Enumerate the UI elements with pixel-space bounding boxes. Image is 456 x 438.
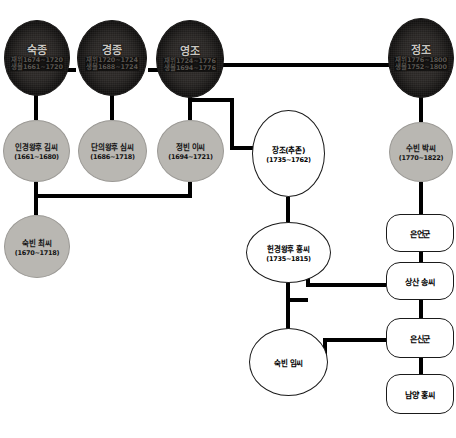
genealogy-chart: 숙종 재위1674~1720 생몰1661~1720 경종 재위1720~172… bbox=[0, 0, 456, 438]
node-jangjo[interactable]: 장조(추존) (1735~1762) bbox=[252, 110, 325, 197]
node-subin-park-dates: (1770~1822) bbox=[399, 154, 443, 162]
node-hyegyeong-queen-dates: (1735~1815) bbox=[266, 255, 310, 263]
node-sangsan-song[interactable]: 상산 송씨 bbox=[386, 262, 454, 300]
node-hyegyeong-queen-name: 헌경왕후 홍씨 bbox=[267, 243, 310, 254]
node-sukbin-lim-name: 숙빈 임씨 bbox=[274, 357, 303, 368]
node-jeongbin-lee-dates: (1694~1721) bbox=[168, 153, 212, 161]
node-jeongjo-reign: 생몰1752~1800 bbox=[394, 64, 447, 71]
node-yeongjo[interactable]: 영조 재위1724~1776 생몰1694~1776 bbox=[156, 20, 224, 98]
node-subin-park-name: 수빈 박씨 bbox=[406, 142, 435, 153]
node-namyang-hong[interactable]: 남양 홍씨 bbox=[386, 374, 454, 414]
node-jeongbin-lee-name: 정빈 이씨 bbox=[176, 141, 205, 152]
node-jeongbin-lee[interactable]: 정빈 이씨 (1694~1721) bbox=[157, 120, 224, 182]
node-jangjo-dates: (1735~1762) bbox=[266, 156, 310, 164]
node-danui-queen-name: 단의왕후 심씨 bbox=[91, 141, 134, 152]
node-jangjo-name: 장조(추존) bbox=[272, 144, 305, 155]
node-sukbin-lim[interactable]: 숙빈 임씨 bbox=[249, 328, 328, 396]
node-sukbin-choi[interactable]: 숙빈 최씨 (1670~1718) bbox=[4, 215, 70, 278]
node-ingyeong-queen[interactable]: 인경왕후 김씨 (1661~1680) bbox=[3, 120, 70, 182]
node-sukjong-reign: 생몰1661~1720 bbox=[10, 64, 63, 71]
node-eunsingun[interactable]: 은신군 bbox=[386, 318, 454, 358]
node-ingyeong-queen-name: 인경왕후 김씨 bbox=[15, 141, 58, 152]
node-eoneongun[interactable]: 은언군 bbox=[386, 214, 454, 252]
node-danui-queen[interactable]: 단의왕후 심씨 (1686~1718) bbox=[78, 120, 147, 182]
node-subin-park[interactable]: 수빈 박씨 (1770~1822) bbox=[389, 122, 453, 182]
node-sukbin-choi-dates: (1670~1718) bbox=[15, 249, 59, 257]
node-sukbin-choi-name: 숙빈 최씨 bbox=[22, 237, 51, 248]
node-danui-queen-dates: (1686~1718) bbox=[90, 153, 134, 161]
node-gyeongjong[interactable]: 경종 재위1720~1724 생몰1688~1724 bbox=[77, 20, 147, 96]
node-jeongjo[interactable]: 정조 재위1776~1800 생몰1752~1800 bbox=[388, 18, 454, 98]
node-hyegyeong-queen[interactable]: 헌경왕후 홍씨 (1735~1815) bbox=[246, 222, 331, 283]
node-eoneongun-name: 은언군 bbox=[410, 228, 430, 239]
node-sangsan-song-name: 상산 송씨 bbox=[405, 276, 434, 287]
node-eunsingun-name: 은신군 bbox=[410, 333, 430, 344]
node-ingyeong-queen-dates: (1661~1680) bbox=[14, 153, 58, 161]
node-sukjong[interactable]: 숙종 재위1674~1720 생몰1661~1720 bbox=[4, 20, 70, 96]
node-gyeongjong-reign: 생몰1688~1724 bbox=[85, 64, 138, 71]
node-namyang-hong-name: 남양 홍씨 bbox=[405, 389, 434, 400]
node-yeongjo-reign: 생몰1694~1776 bbox=[163, 65, 216, 72]
